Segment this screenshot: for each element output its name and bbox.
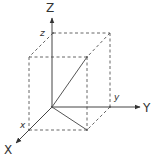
x-coordinate-label: x [19,120,26,130]
z-coordinate-label: z [39,28,45,38]
x-axis-label: X [4,143,12,157]
coordinate-diagram: Z Y X z y x [0,0,162,165]
vector-end-point [86,56,88,58]
position-vector [52,57,87,107]
vectors [52,57,87,130]
y-axis-label: Y [142,101,151,115]
z-point [52,32,54,34]
z-axis-label: Z [46,1,54,15]
box-edge-top-right-diagonal [87,33,110,57]
origin-point [51,106,53,108]
y-coordinate-label: y [113,92,120,102]
projection-end-point [86,129,88,131]
x-point [28,129,30,131]
projection-line [52,107,87,130]
box-edge-bottom-right-diagonal [87,107,110,130]
y-point [109,106,111,108]
